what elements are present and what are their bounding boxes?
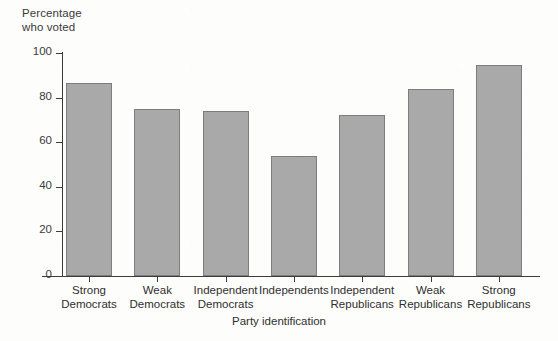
y-axis-tick-mark — [56, 276, 62, 277]
y-axis-tick: 20 — [0, 231, 62, 232]
y-axis-tick: 80 — [0, 98, 62, 99]
y-axis-title: Percentage who voted — [22, 6, 82, 34]
x-axis-tick-mark — [431, 277, 432, 282]
y-axis-tick-label: 40 — [39, 179, 52, 191]
y-axis-tick: 100 — [0, 53, 62, 54]
bar — [134, 109, 180, 276]
y-axis-tick-label: 100 — [33, 45, 52, 57]
y-axis-tick: 60 — [0, 142, 62, 143]
bar — [66, 83, 112, 276]
bar — [271, 156, 317, 276]
x-axis-category-label-line: Strong — [451, 284, 547, 298]
y-axis-tick: 40 — [0, 187, 62, 188]
y-axis-tick-label: 60 — [39, 134, 52, 146]
x-axis-category-label-line: Republicans — [451, 298, 547, 312]
bar — [203, 111, 249, 276]
bar-chart-figure: Percentage who voted 020406080100 Strong… — [0, 0, 558, 341]
x-axis-category-label: StrongRepublicans — [451, 284, 547, 311]
x-axis-tick-mark — [499, 277, 500, 282]
y-axis-tick-label: 80 — [39, 90, 52, 102]
x-axis-line — [42, 276, 540, 277]
bar — [408, 89, 454, 276]
x-axis-tick-mark — [157, 277, 158, 282]
bar — [339, 115, 385, 276]
plot-area — [62, 53, 540, 276]
x-axis-category-label-line: Democrats — [178, 298, 274, 312]
bar — [476, 65, 522, 276]
y-axis-title-line-2: who voted — [22, 20, 82, 34]
y-axis-tick-label: 0 — [46, 268, 52, 280]
x-axis-tick-mark — [294, 277, 295, 282]
x-axis-tick-mark — [226, 277, 227, 282]
x-axis-title: Party identification — [0, 315, 558, 327]
y-axis-tick-label: 20 — [39, 223, 52, 235]
x-axis-tick-mark — [89, 277, 90, 282]
y-axis-tick: 0 — [0, 276, 62, 277]
y-axis-title-line-1: Percentage — [22, 6, 82, 20]
x-axis-tick-mark — [362, 277, 363, 282]
